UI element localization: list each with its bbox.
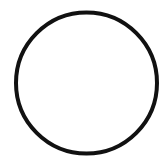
circle-graphic [0,0,164,162]
canvas [0,0,164,162]
circle-outline-icon [16,13,157,154]
